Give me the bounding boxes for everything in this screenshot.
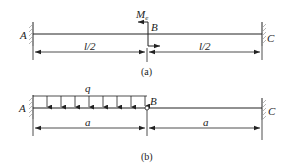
figure-b: A q B (18, 82, 276, 163)
distributed-load-icon (33, 96, 147, 107)
beam-diagrams: A Me B C (0, 0, 294, 166)
point-c-label: C (268, 105, 276, 117)
caption-a: (a) (141, 66, 152, 78)
fixed-support-a-icon (29, 95, 33, 119)
fixed-support-c-icon (262, 98, 266, 120)
span-left-label: l/2 (84, 40, 96, 52)
point-c-label: C (267, 32, 275, 44)
span-right-label: a (203, 116, 209, 128)
load-label: q (85, 82, 91, 94)
caption-b: (b) (141, 151, 153, 163)
span-right-label: l/2 (199, 40, 211, 52)
point-a-label: A (18, 102, 26, 114)
span-left-label: a (85, 116, 91, 128)
hinge-icon (145, 106, 149, 110)
figure-a: A Me B C (19, 8, 275, 78)
point-b-label: B (150, 95, 157, 107)
point-b-label: B (151, 21, 158, 33)
fixed-support-a-icon (29, 22, 33, 46)
point-a-label: A (19, 29, 27, 41)
dimension-a (33, 46, 262, 62)
dimension-b (33, 110, 262, 140)
fixed-support-c-icon (262, 22, 266, 46)
moment-label: Me (135, 8, 148, 22)
